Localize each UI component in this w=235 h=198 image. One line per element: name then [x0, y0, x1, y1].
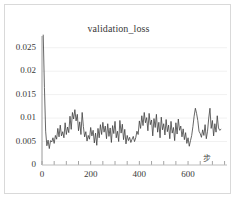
- data-series-validation-loss: [43, 35, 221, 149]
- y-tick-label: 0.025: [16, 42, 36, 52]
- y-tick-label: 0.01: [20, 112, 36, 122]
- chart-container: validation_loss 00.0050.010.0150.020.025…: [4, 4, 231, 194]
- plot-area: [5, 5, 232, 195]
- x-tick-label: 200: [71, 169, 111, 179]
- y-tick-label: 0.015: [16, 89, 36, 99]
- y-tick-label: 0.02: [20, 65, 36, 75]
- y-tick-label: 0.005: [16, 136, 36, 146]
- x-tick-label: 600: [168, 169, 208, 179]
- y-tick-label: 0: [32, 159, 37, 169]
- x-tick-label: 400: [119, 169, 159, 179]
- x-tick-label: 0: [22, 169, 62, 179]
- x-axis-ticks: [42, 161, 225, 165]
- gridlines: [42, 48, 227, 142]
- x-axis-title: 步: [203, 152, 211, 163]
